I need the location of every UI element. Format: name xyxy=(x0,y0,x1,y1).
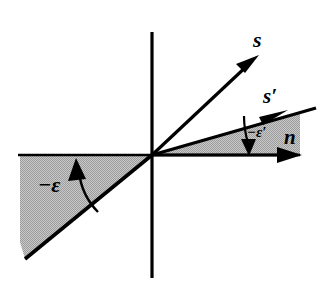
label-n: n xyxy=(284,127,296,148)
vector-diagram-figure: s s′ n −ε −ε′ xyxy=(0,0,334,287)
label-minus-epsilon: −ε xyxy=(38,174,60,196)
label-s-prime: s′ xyxy=(263,86,277,107)
label-minus-epsilon-prime: −ε′ xyxy=(247,125,266,140)
label-s: s xyxy=(253,29,262,51)
